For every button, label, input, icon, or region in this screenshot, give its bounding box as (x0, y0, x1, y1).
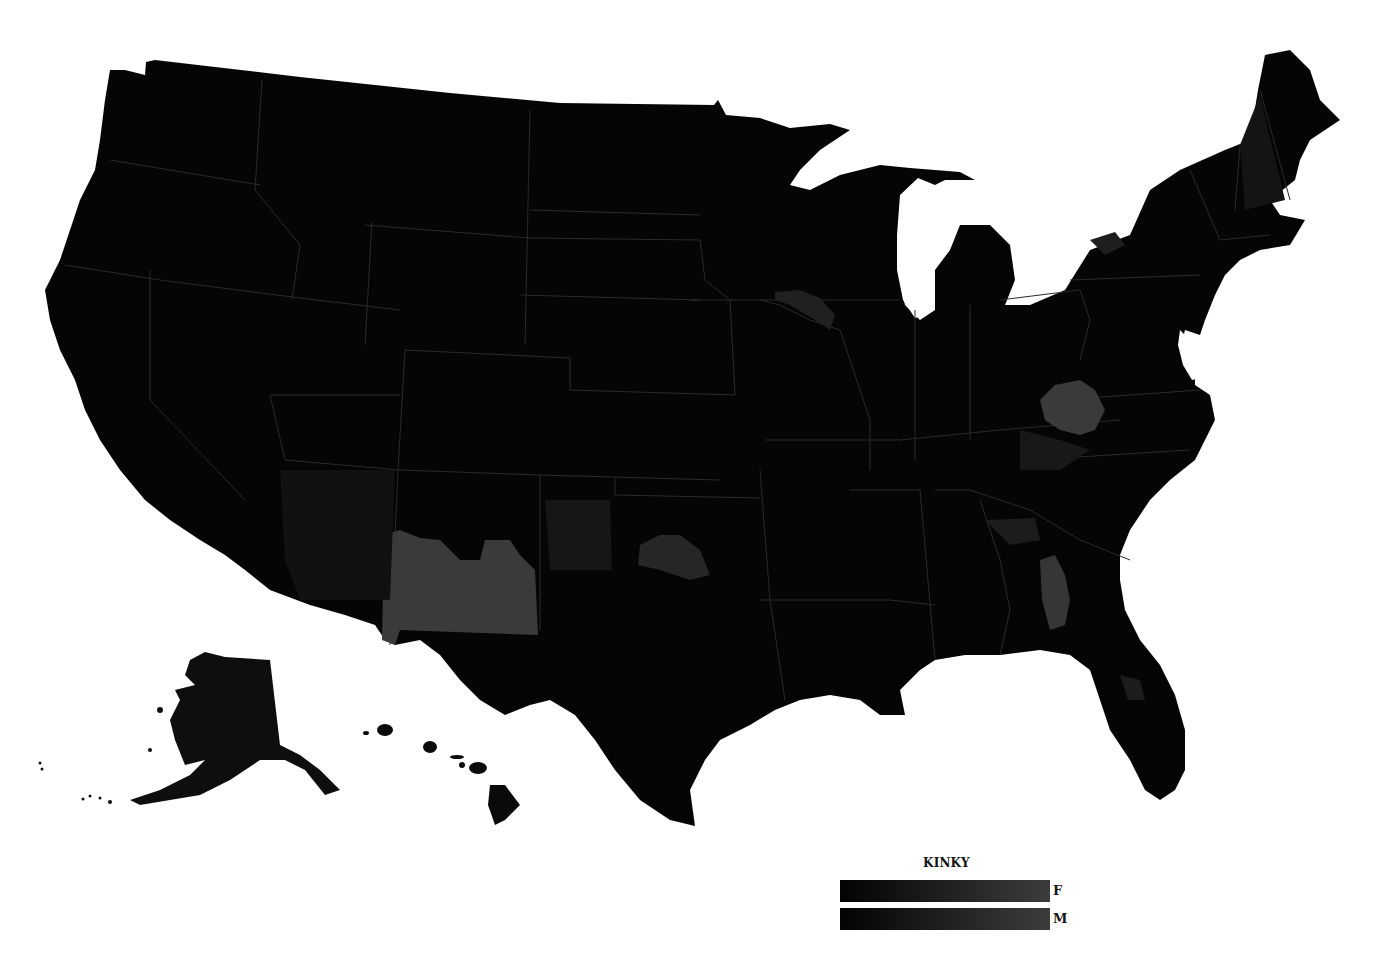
region-texas-panhandle (545, 500, 612, 570)
hawaii-shape (363, 724, 520, 825)
legend-label-m: M (1053, 911, 1067, 926)
legend-bar-f (840, 880, 1050, 902)
legend-label-f: F (1053, 883, 1062, 898)
alaska-shape (130, 652, 340, 805)
legend-title: KINKY (923, 856, 970, 870)
legend-bar-m (840, 908, 1050, 930)
lake-michigan (897, 178, 935, 318)
region-arizona (280, 470, 395, 600)
aleutian-islands (39, 707, 164, 804)
us-choropleth-map (0, 0, 1391, 979)
